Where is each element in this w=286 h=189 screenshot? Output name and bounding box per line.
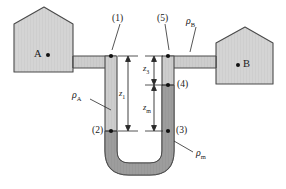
label-point-2: (2): [92, 126, 103, 136]
label-z1: z1: [119, 89, 125, 100]
label-point-3: (3): [176, 126, 187, 136]
label-zm: zm: [143, 103, 151, 114]
leader-rho-m: [174, 141, 193, 152]
label-point-4: (4): [177, 80, 188, 90]
vessel-a-body: [14, 7, 73, 72]
dot-point-3: [166, 129, 170, 133]
label-z3: z3: [143, 64, 149, 75]
dot-point-5: [166, 54, 170, 58]
figure-canvas: [0, 0, 286, 189]
leader-point-1: [112, 24, 120, 50]
dot-point-1: [109, 54, 113, 58]
leader-rho-b: [190, 27, 196, 52]
dot-vessel-a: [46, 53, 50, 57]
label-rho-m: ρm: [196, 148, 206, 161]
label-rho-b: ρB: [186, 16, 195, 29]
dot-point-2: [109, 129, 113, 133]
dot-point-4: [166, 83, 170, 87]
leader-point-5: [165, 24, 169, 50]
dot-vessel-b: [236, 63, 240, 67]
manometer-figure: (1) (5) (2) (3) (4) A B ρA ρB ρm z1 z3 z…: [0, 0, 286, 189]
vessel-b-body: [216, 27, 273, 84]
label-vessel-b: B: [243, 59, 250, 70]
label-vessel-a: A: [34, 49, 42, 60]
pipe-b: [170, 56, 216, 68]
label-rho-a: ρA: [72, 90, 82, 103]
label-point-1: (1): [112, 14, 123, 24]
label-point-5: (5): [157, 14, 168, 24]
